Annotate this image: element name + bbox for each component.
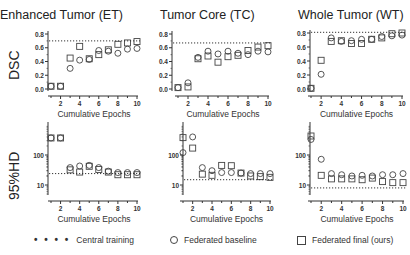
baseline-point [175,85,181,91]
final-point [190,145,196,151]
baseline-point [190,134,196,140]
final-point [199,171,205,177]
y-tick-label: 0.2 [35,72,44,79]
baseline-point [399,32,405,38]
baseline-point [379,34,385,40]
panel-top-middle: 246810Cumulative Epochs0.00.20.40.60.8 [159,31,272,120]
baseline-point [245,52,251,58]
y-tick-label: 0.2 [297,72,306,79]
baseline-point [369,173,375,179]
x-tick-label: 4 [78,100,82,107]
x-tick-label: 6 [230,205,234,212]
y-tick-label: 10 [37,182,45,189]
final-point [134,39,140,45]
final-point [228,163,234,169]
baseline-point [359,172,365,178]
baseline-point [308,85,314,91]
baseline-point [134,170,140,176]
legend-central: • • • • Central training [34,235,134,245]
y-tick-label: 10 [299,182,307,189]
baseline-point [77,57,83,63]
final-point [77,43,83,49]
x-tick-label: 10 [133,100,141,107]
final-point [390,180,396,186]
baseline-point [267,171,273,177]
baseline-point [248,171,254,177]
x-tick-label: 2 [319,100,323,107]
baseline-point [238,170,244,176]
x-tick-label: 8 [380,100,384,107]
title-wt: Whole Tumor (WT) [298,8,404,22]
baseline-point [390,172,396,178]
x-tick-label: 8 [116,100,120,107]
final-point [265,43,271,49]
final-point [67,55,73,61]
baseline-point [380,172,386,178]
baseline-point [219,170,225,176]
baseline-point [389,33,395,39]
x-tick-label: 6 [360,100,364,107]
baseline-point [400,171,406,177]
x-tick-label: 2 [319,205,323,212]
baseline-point [228,170,234,176]
x-tick-label: 8 [381,205,385,212]
x-tick-label: 6 [226,100,230,107]
row-label-dsc: DSC [6,50,22,80]
baseline-point [48,83,54,89]
final-point [400,180,406,186]
legend-baseline: Federated baseline [170,235,257,245]
baseline-point [67,165,73,171]
baseline-point [195,54,201,60]
final-point [318,57,324,63]
final-point [380,179,386,185]
final-point [115,41,121,47]
panel-bottom-left: 246810Cumulative Epochs10100 [33,122,141,224]
baseline-point [209,168,215,174]
baseline-point [215,51,221,57]
baseline-point [105,48,111,54]
baseline-point [369,36,375,42]
legend: • • • • Central training Federated basel… [0,233,410,251]
x-tick-label: 2 [191,205,195,212]
y-tick-label: 0.8 [35,31,44,38]
final-point [195,56,201,62]
panel-top-left: 246810Cumulative Epochs0.00.20.40.60.8 [35,31,141,120]
baseline-point [58,83,64,89]
baseline-point [328,35,334,41]
baseline-point [185,80,191,86]
x-tick-label: 10 [266,205,274,212]
y-tick-label: 0.6 [297,44,306,51]
x-tick-label: 2 [59,205,63,212]
y-tick-label: 0.6 [159,44,168,51]
baseline-point [96,48,102,54]
title-et: Enhanced Tumor (ET) [0,8,123,22]
baseline-point [115,50,121,56]
y-tick-label: 0.0 [297,86,306,93]
y-tick-label: 0.4 [159,58,168,65]
x-axis-label: Cumulative Epochs [320,109,393,119]
x-tick-label: 2 [186,100,190,107]
x-tick-label: 2 [59,100,63,107]
baseline-point [115,170,121,176]
baseline-point [124,170,130,176]
x-tick-label: 8 [116,205,120,212]
baseline-point [134,45,140,51]
final-point [105,47,111,53]
baseline-point [255,48,261,54]
baseline-point [265,49,271,55]
final-point [215,59,221,65]
x-tick-label: 4 [78,205,82,212]
y-tick-label: 100 [168,152,179,159]
x-axis-label: Cumulative Epochs [57,214,130,224]
final-point [379,35,385,41]
panel-bottom-middle: 246810Cumulative Epochs10100 [168,122,274,224]
x-tick-label: 4 [210,205,214,212]
y-tick-label: 100 [33,152,44,159]
y-tick-label: 0.4 [35,58,44,65]
x-tick-label: 4 [206,100,210,107]
dotted-line-icon: • • • • [34,236,70,244]
baseline-point [124,46,130,52]
baseline-point [77,163,83,169]
baseline-point [67,65,73,71]
y-tick-label: 10 [172,182,180,189]
